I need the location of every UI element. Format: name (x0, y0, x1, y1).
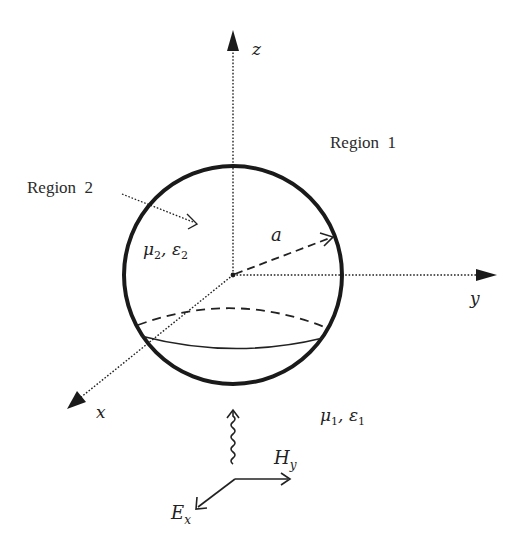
x-axis-label: x (96, 402, 106, 422)
z-axis: z (227, 30, 262, 275)
z-axis-label: z (251, 39, 262, 59)
sphere-equator-front (141, 336, 323, 349)
h-field-label: Hy (273, 447, 297, 472)
field-vectors: Hy Ex (170, 447, 297, 527)
radius-arrow: a (235, 224, 333, 274)
region-1-label: Region 1 (330, 133, 396, 152)
y-axis: y (233, 269, 497, 308)
region-2-pointer (122, 194, 197, 229)
e-field-label: Ex (170, 502, 191, 527)
y-axis-arrow-icon (476, 269, 497, 281)
sphere-diagram: z y x a Region 1 Region 2 μ2, ε2 μ1, ε1 (0, 0, 516, 553)
region-1-params: μ1, ε1 (320, 405, 365, 428)
y-axis-label: y (469, 288, 480, 308)
region-2-label: Region 2 (27, 178, 93, 197)
incident-wave-arrow (227, 410, 239, 464)
z-axis-arrow-icon (227, 30, 239, 51)
e-field-arrowhead-icon (196, 497, 207, 509)
region-2-params: μ2, ε2 (143, 239, 188, 262)
origin-dot (231, 273, 236, 278)
radius-label: a (271, 224, 282, 245)
wavy-line-icon (231, 410, 235, 464)
sphere-equator-back (138, 308, 327, 328)
x-axis-arrow-icon (67, 391, 86, 409)
